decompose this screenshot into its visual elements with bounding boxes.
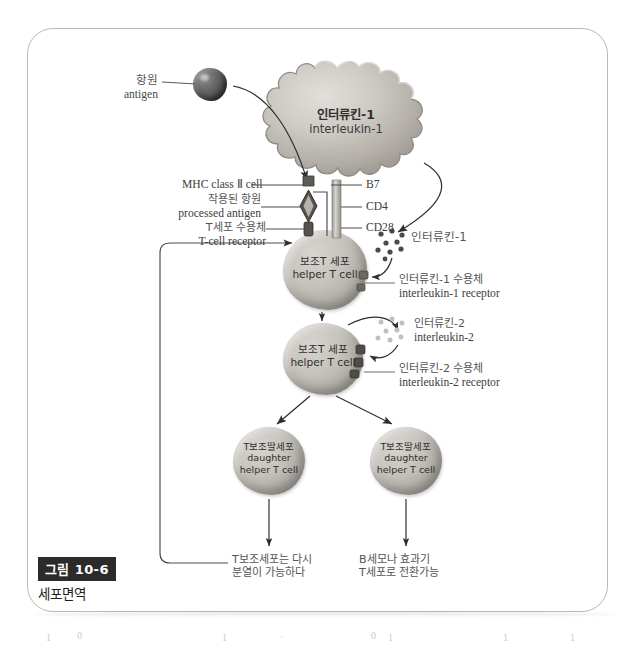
artifact-mark: 1 <box>388 632 393 643</box>
interleukin-2-label: 인터류킨-2 interleukin-2 <box>414 318 474 345</box>
mhc-label: MHC class Ⅱ cell <box>182 178 252 192</box>
figure-number-badge: 그림 10-6 <box>38 557 116 581</box>
interleukin-1-label: 인터류킨-1 <box>411 231 467 245</box>
footnote-left-line2: 분열이 가능하다 <box>232 567 312 580</box>
il1-receptor-en: interleukin-1 receptor <box>399 287 500 301</box>
artifact-mark: 1 <box>570 632 575 643</box>
daughter-right-ko: T보조딸세포 <box>366 441 446 452</box>
mhc-label-text: MHC class Ⅱ cell <box>182 178 252 192</box>
il2-en: interleukin-2 <box>414 331 474 345</box>
figure-title: 세포면역 <box>38 583 86 603</box>
artifact-mark: 0 <box>77 630 82 641</box>
helper-t-2-ko: 보조T 세포 <box>283 343 363 356</box>
macrophage-label-ko: 인터류킨-1 <box>288 108 404 123</box>
helper-t-2-en: helper T cell <box>283 356 363 369</box>
processed-antigen-label: 작용된 항원 processed antigen <box>150 194 261 221</box>
il1-receptor-ko: 인터류킨-1 수용체 <box>399 274 500 287</box>
macrophage-label-en: interleukin-1 <box>288 123 404 137</box>
daughter-left-en2: helper T cell <box>229 464 309 475</box>
footnote-right-line2: T세포로 전환가능 <box>359 567 439 580</box>
il2-receptor-en: interleukin-2 receptor <box>399 376 500 390</box>
il2-receptor-ko: 인터류킨-2 수용체 <box>399 363 500 376</box>
daughter-left-en1: daughter <box>229 452 309 463</box>
il2-ko: 인터류킨-2 <box>414 318 474 331</box>
daughter-left-ko: T보조딸세포 <box>229 441 309 452</box>
helper-t-1-en: helper T cell <box>283 268 367 281</box>
footnote-right: B세모나 효과기 T세포로 전환가능 <box>359 554 439 580</box>
processed-antigen-en: processed antigen <box>150 207 261 221</box>
daughter-right-en2: helper T cell <box>366 464 446 475</box>
cd4-label: CD4 <box>366 200 388 214</box>
macrophage-label: 인터류킨-1 interleukin-1 <box>288 108 404 136</box>
helper-t-cell-1-caption: 보조T 세포 helper T cell <box>283 255 367 280</box>
daughter-right-en1: daughter <box>366 452 446 463</box>
tcr-ko: T세포 수용체 <box>155 222 266 235</box>
figure-canvas: 항원 antigen 인터류킨-1 interleukin-1 MHC clas… <box>0 0 637 655</box>
artifact-mark: 1 <box>46 632 51 643</box>
interleukin-1-receptor-label: 인터류킨-1 수용체 interleukin-1 receptor <box>399 274 500 301</box>
tcr-label: T세포 수용체 T-cell receptor <box>155 222 266 249</box>
tcr-en: T-cell receptor <box>155 235 266 249</box>
scan-artifacts: 1 0 1 · 0 1 1 1 <box>0 624 637 655</box>
artifact-mark: 1 <box>503 632 508 643</box>
artifact-mark: 0 <box>371 630 376 641</box>
helper-t-1-ko: 보조T 세포 <box>283 255 367 268</box>
artifact-mark: · <box>280 631 283 642</box>
cd28-label: CD28 <box>366 221 394 235</box>
footnote-left: T보조세포는 다시 분열이 가능하다 <box>232 554 312 580</box>
daughter-right-caption: T보조딸세포 daughter helper T cell <box>366 441 446 475</box>
processed-antigen-ko: 작용된 항원 <box>150 194 261 207</box>
helper-t-cell-2-caption: 보조T 세포 helper T cell <box>283 343 363 368</box>
b7-label: B7 <box>366 178 380 192</box>
artifact-mark: 1 <box>222 632 227 643</box>
daughter-left-caption: T보조딸세포 daughter helper T cell <box>229 441 309 475</box>
interleukin-2-receptor-label: 인터류킨-2 수용체 interleukin-2 receptor <box>399 363 500 390</box>
